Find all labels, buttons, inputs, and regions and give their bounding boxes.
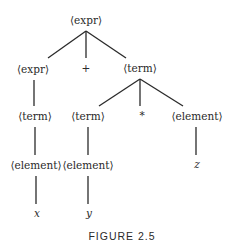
- tree-node: ⟨expr⟩: [17, 64, 49, 75]
- tree-node: ⟨term⟩: [71, 111, 105, 122]
- tree-edge-n0-n1: [48, 31, 86, 58]
- tree-node: ⟨element⟩: [171, 111, 222, 122]
- tree-node: +: [82, 63, 91, 74]
- tree-node: x: [34, 208, 40, 219]
- tree-node: *: [139, 110, 144, 121]
- tree-node: y: [86, 208, 92, 219]
- tree-edge-n3-n7: [140, 79, 183, 106]
- tree-edge-n3-n5: [99, 79, 140, 106]
- tree-node: ⟨term⟩: [18, 111, 52, 122]
- tree-node: ⟨expr⟩: [70, 15, 102, 26]
- figure-caption: FIGURE 2.5: [88, 230, 155, 242]
- tree-edge-n0-n3: [86, 31, 126, 58]
- tree-node: ⟨element⟩: [10, 160, 61, 171]
- tree-node: ⟨term⟩: [123, 63, 157, 74]
- tree-node: z: [194, 159, 200, 170]
- tree-node: ⟨element⟩: [62, 160, 113, 171]
